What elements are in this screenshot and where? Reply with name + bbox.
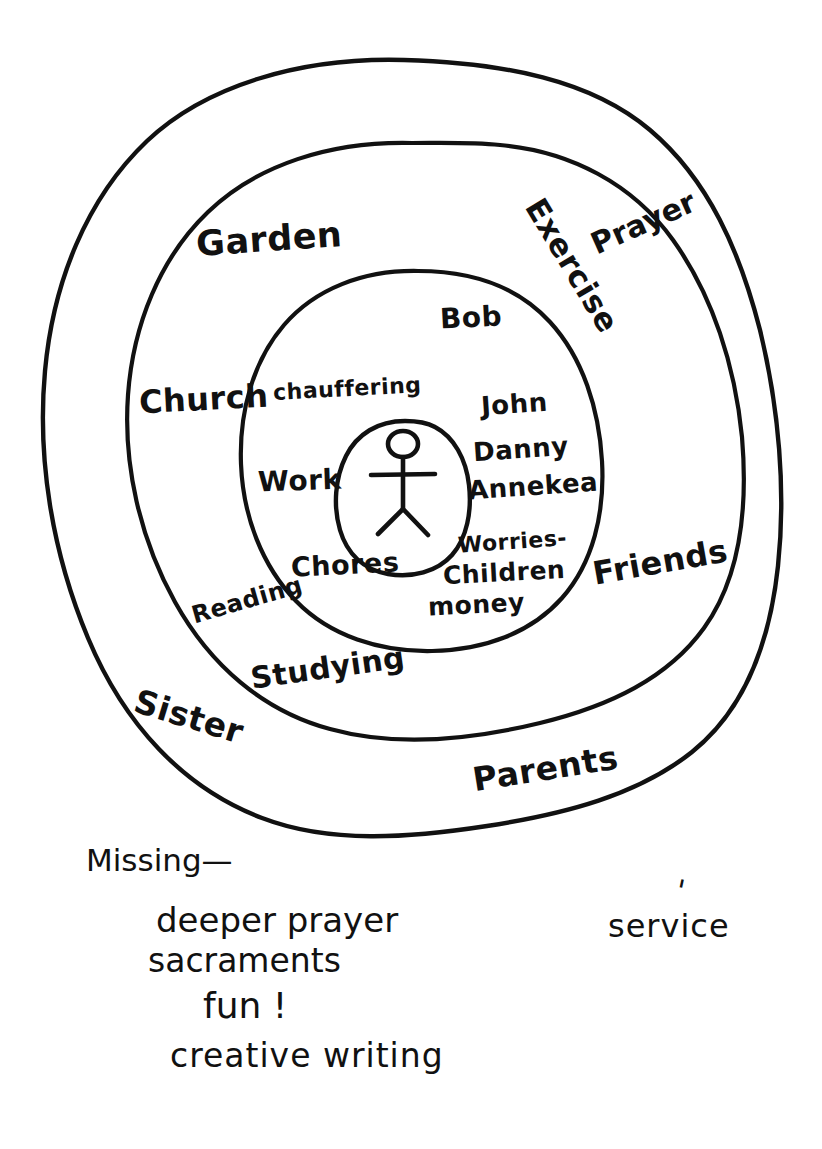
inner-ring-label-worries: Worries- xyxy=(457,527,567,557)
middle-ring-label-reading: Reading xyxy=(189,573,305,628)
inner-ring-label-work: Work xyxy=(258,466,342,497)
inner-ring-label-chores: Chores xyxy=(290,548,400,581)
notes-heading: Missing— xyxy=(86,845,233,876)
inner-ring-label-money: money xyxy=(427,589,525,619)
notes-item-creative-writing: creative writing xyxy=(170,1039,444,1072)
notes-item-service: service xyxy=(608,910,730,942)
outer-ring-label-prayer: Prayer xyxy=(587,187,700,259)
notes-item-sacraments: sacraments xyxy=(148,944,341,977)
inner-ring-label-chauffering: chauffering xyxy=(273,374,423,404)
inner-ring-label-john: John xyxy=(480,389,548,420)
outer-ring-label-parents: Parents xyxy=(470,741,620,797)
middle-ring-label-church: Church xyxy=(138,380,269,419)
notes-item-fun: fun ! xyxy=(203,988,287,1024)
notes-item-deeper-prayer: deeper prayer xyxy=(156,903,398,937)
stray-tick-mark: ' xyxy=(673,875,687,906)
middle-ring-label-garden: Garden xyxy=(195,217,343,262)
inner-ring-label-children: Children xyxy=(442,557,565,588)
outer-ring-label-sister: Sister xyxy=(131,684,248,748)
middle-ring-label-exercise: Exercise xyxy=(520,193,624,338)
stick-figure-head xyxy=(388,431,418,457)
middle-ring-label-studying: Studying xyxy=(249,642,407,693)
stick-figure-arms xyxy=(371,474,435,475)
inner-ring-label-annekea: Annekea xyxy=(467,468,599,503)
inner-ring-label-danny: Danny xyxy=(472,433,569,466)
inner-ring-label-bob: Bob xyxy=(439,302,503,333)
stick-figure-legs xyxy=(378,509,428,535)
outer-ring-label-friends: Friends xyxy=(590,534,730,589)
diagram-canvas: Prayer Friends Parents Sister Garden Exe… xyxy=(0,0,822,1149)
